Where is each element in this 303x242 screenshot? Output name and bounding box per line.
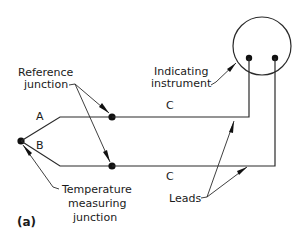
wire-a	[21, 117, 112, 141]
arrowhead-icon	[237, 167, 247, 175]
wire-label-b: B	[36, 139, 44, 152]
arrowhead-icon	[99, 103, 109, 113]
leads-leader-upper	[201, 121, 234, 198]
arrowhead-icon	[103, 150, 110, 162]
indicating-instrument-circle	[233, 17, 291, 75]
thermocouple-circuit-diagram: A B C C Reference junction Indicating in…	[0, 0, 303, 242]
reference-junction-label-line2: junction	[23, 78, 68, 91]
leads-label: Leads	[169, 192, 201, 205]
reference-junction-leader-lower	[75, 84, 110, 162]
arrowhead-icon	[229, 121, 234, 133]
temperature-junction-label-line2: measuring	[68, 197, 126, 210]
wire-label-c-lower: C	[166, 170, 174, 183]
panel-label: (a)	[17, 215, 36, 229]
wire-b	[21, 141, 112, 166]
instrument-label-line2: instrument	[151, 77, 212, 90]
wire-label-a: A	[36, 110, 44, 123]
temperature-junction-label-line3: junction	[72, 211, 117, 224]
wire-label-c-upper: C	[166, 99, 174, 112]
temperature-junction-label-line1: Temperature	[61, 183, 132, 196]
